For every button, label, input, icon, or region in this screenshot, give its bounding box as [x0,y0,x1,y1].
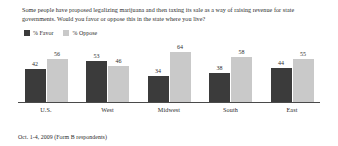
category-axis-labels: U.S. West Midwest South East [18,106,320,113]
bar-value-east-oppose: 55 [300,51,306,58]
bar-wrap-west-oppose: 46 [108,40,129,102]
chart-footnote: Oct. 1-4, 2009 (Form B respondents) [18,134,107,140]
bar-value-west-favor: 53 [93,53,99,60]
bar-value-us-favor: 42 [32,61,38,68]
bar-value-east-favor: 44 [278,60,284,67]
category-label-midwest: Midwest [141,106,197,113]
bar-value-midwest-oppose: 64 [177,44,183,51]
bar-east-oppose [293,59,314,101]
legend-label-oppose: % Oppose [72,30,97,36]
chart-question-title: Some people have proposed legalizing mar… [22,6,322,25]
category-label-west: West [80,106,136,113]
bar-midwest-oppose [170,52,191,101]
bar-value-us-oppose: 56 [54,51,60,58]
legend-swatch-favor-icon [24,30,30,36]
legend-label-favor: % Favor [33,30,53,36]
bar-value-west-oppose: 46 [115,58,121,65]
bar-group-midwest: 34 64 [141,40,197,102]
chart-figure: Some people have proposed legalizing mar… [0,0,338,146]
bar-wrap-east-favor: 44 [271,40,292,102]
legend-entry-oppose: % Oppose [63,30,97,36]
bar-wrap-us-oppose: 56 [47,40,68,102]
bar-west-oppose [108,66,129,101]
bar-west-favor [86,61,107,102]
category-label-east: East [264,106,320,113]
bar-south-oppose [231,57,252,102]
legend-entry-favor: % Favor [24,30,53,36]
chart-legend: % Favor % Oppose [24,30,326,36]
chart-baseline-axis [18,102,320,103]
bar-us-favor [25,69,46,101]
bar-value-south-oppose: 58 [238,49,244,56]
legend-swatch-oppose-icon [63,30,69,36]
chart-plot-area: 42 56 53 46 34 [18,40,320,102]
category-label-south: South [203,106,259,113]
bar-wrap-us-favor: 42 [25,40,46,102]
bar-wrap-south-oppose: 58 [231,40,252,102]
bar-group-east: 44 55 [264,40,320,102]
bar-wrap-midwest-oppose: 64 [170,40,191,102]
bar-group-us: 42 56 [18,40,74,102]
bar-value-south-favor: 38 [216,65,222,72]
bar-group-west: 53 46 [80,40,136,102]
bar-us-oppose [47,59,68,102]
bar-wrap-east-oppose: 55 [293,40,314,102]
bar-midwest-favor [148,76,169,102]
bar-east-favor [271,68,292,102]
bar-value-midwest-favor: 34 [155,68,161,75]
bar-group-south: 38 58 [203,40,259,102]
bar-wrap-west-favor: 53 [86,40,107,102]
bar-south-favor [209,73,230,102]
bar-wrap-midwest-favor: 34 [148,40,169,102]
category-label-us: U.S. [18,106,74,113]
bar-groups: 42 56 53 46 34 [18,40,320,102]
bar-wrap-south-favor: 38 [209,40,230,102]
